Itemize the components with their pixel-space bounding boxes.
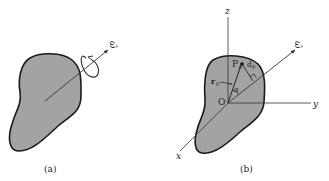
omega-hat-label-a: ω̂ (108, 41, 118, 49)
caption-a: (a) (44, 164, 56, 174)
rigid-body-rotation-figure: ω̂ (a) z y x ω̂ O P r P d P (0, 0, 329, 181)
point-P-label: P (232, 59, 238, 69)
rigid-body-a (10, 54, 82, 151)
y-axis-label: y (312, 99, 319, 109)
caption-b: (b) (240, 164, 253, 174)
angle-alpha-label: α (234, 86, 239, 94)
panel-a: ω̂ (a) (10, 41, 118, 174)
z-axis-label: z (224, 6, 230, 16)
x-axis-label: x (176, 151, 181, 161)
rigid-body-b (195, 56, 265, 153)
rotation-curl-icon (81, 56, 98, 77)
panel-b: z y x ω̂ O P r P d P α (b) (176, 6, 319, 174)
origin-label: O (218, 97, 225, 107)
omega-hat-label-b: ω̂ (293, 41, 303, 49)
